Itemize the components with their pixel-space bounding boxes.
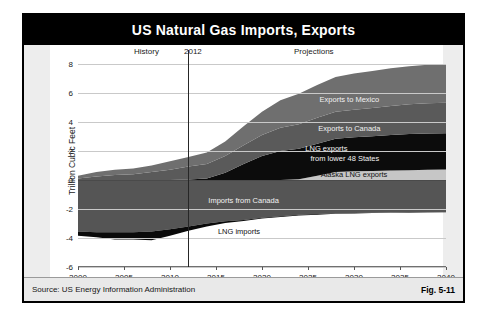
x-axis-tick-mark: [124, 267, 125, 270]
y-axis-tick-label: 4: [69, 118, 73, 127]
y-axis-tick-label: 0: [69, 176, 73, 185]
gridline: [78, 64, 446, 65]
area-imports-from-canada: [78, 180, 446, 232]
label-exports-to-canada: Exports to Canada: [318, 123, 380, 132]
left-margin-band: [24, 45, 50, 277]
y-axis-tick-label: -4: [66, 234, 73, 243]
right-margin-band: [443, 45, 463, 277]
y-axis-tick-label: -6: [66, 263, 73, 272]
plot-area: 86420-2-4-620002005201020152020202520302…: [78, 64, 446, 267]
y-axis-title: Trillion Cubic Feet: [67, 127, 77, 195]
gridline: [78, 209, 446, 210]
x-axis-tick-mark: [170, 267, 171, 270]
x-axis-tick-mark: [446, 267, 447, 270]
figure-title-bar: US Natural Gas Imports, Exports: [24, 15, 463, 45]
label-lng-imports: LNG imports: [218, 227, 260, 236]
x-axis-tick-mark: [308, 267, 309, 270]
label-lng-exports-line1: LNG exports: [305, 144, 347, 153]
projections-label: Projections: [294, 47, 334, 56]
gridline: [78, 151, 446, 152]
era-label-row: History 2012 Projections: [78, 47, 446, 63]
x-axis-tick-mark: [354, 267, 355, 270]
page-title: US Natural Gas Imports, Exports: [132, 22, 355, 38]
x-axis-tick-mark: [78, 267, 79, 270]
y-axis-tick-label: 2: [69, 147, 73, 156]
label-exports-to-mexico: Exports to Mexico: [320, 94, 380, 103]
gridline: [78, 93, 446, 94]
divider-year-label: 2012: [184, 47, 202, 56]
x-axis-tick-mark: [400, 267, 401, 270]
gridline: [78, 238, 446, 239]
label-imports-from-canada: Imports from Canada: [208, 195, 278, 204]
chart-body: History 2012 Projections Trillion Cubic …: [24, 45, 463, 277]
label-alaska-lng-exports: Alaska LNG exports: [321, 170, 388, 179]
source-caption: Source: US Energy Information Administra…: [32, 285, 195, 294]
stacked-area-chart: [78, 64, 446, 267]
history-label: History: [134, 47, 159, 56]
x-axis-tick-mark: [216, 267, 217, 270]
y-axis-tick-label: -2: [66, 205, 73, 214]
x-axis-tick-mark: [262, 267, 263, 270]
gridline: [78, 122, 446, 123]
zero-baseline: [78, 180, 446, 181]
y-axis-tick-label: 6: [69, 89, 73, 98]
y-axis-tick-label: 8: [69, 60, 73, 69]
divider-2012-line: [188, 50, 189, 267]
figure-number: Fig. 5-11: [421, 285, 455, 295]
figure-footer: Source: US Energy Information Administra…: [24, 277, 463, 301]
figure-panel: US Natural Gas Imports, Exports History …: [22, 13, 465, 303]
label-lng-exports-line2: from lower 48 States: [310, 153, 379, 162]
